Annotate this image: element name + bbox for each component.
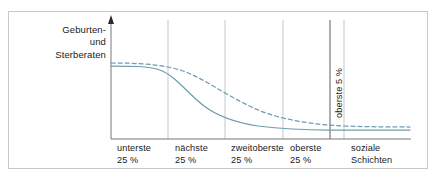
y-axis-label-line-1: Geburten- [20, 24, 106, 36]
category-label-unterste-line1: unterste [117, 143, 151, 155]
category-label-zweitoberste-line1: zweitoberste [231, 143, 284, 155]
category-label-oberste: oberste 25 % [290, 143, 321, 166]
category-label-unterste: unterste 25 % [117, 143, 151, 166]
y-axis-label: Geburten- und Sterberaten [20, 24, 106, 61]
y-axis-label-line-2: und [20, 36, 106, 48]
category-label-zweitoberste-line2: 25 % [231, 155, 284, 167]
category-label-naechste-line1: nächste [175, 143, 208, 155]
series-solid-curve [111, 66, 410, 130]
axis-label-soziale-schichten-line2: Schichten [351, 155, 392, 167]
axis-label-soziale-schichten-line1: soziale [351, 143, 392, 155]
figure-container: Geburten- und Sterberaten oberste 5 % un… [0, 0, 442, 180]
category-label-naechste: nächste 25 % [175, 143, 208, 166]
category-label-oberste-line2: 25 % [290, 155, 321, 167]
category-label-zweitoberste: zweitoberste 25 % [231, 143, 284, 166]
y-axis-label-line-3: Sterberaten [20, 49, 106, 61]
axis-label-soziale-schichten: soziale Schichten [351, 143, 392, 166]
category-label-naechste-line2: 25 % [175, 155, 208, 167]
series-dashed-curve [111, 63, 410, 127]
category-label-oberste-line1: oberste [290, 143, 321, 155]
top5-annotation-label: oberste 5 % [334, 68, 344, 118]
y-axis-arrow-icon [108, 15, 114, 24]
category-label-unterste-line2: 25 % [117, 155, 151, 167]
